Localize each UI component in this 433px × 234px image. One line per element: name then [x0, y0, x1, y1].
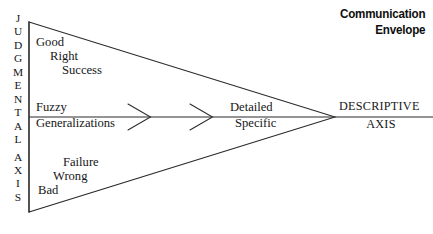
judgmental-axis-letter: N [10, 93, 26, 106]
judgmental-axis-letter: J [10, 12, 26, 25]
judgmental-axis-letter: S [10, 191, 26, 204]
judgmental-axis-letter: X [10, 164, 26, 177]
label-fuzzy: Fuzzy [36, 101, 67, 114]
label-success: Success [62, 64, 102, 77]
label-specific: Specific [235, 117, 276, 130]
label-wrong: Wrong [53, 170, 87, 183]
label-failure: Failure [63, 156, 99, 169]
judgmental-axis-letter: G [10, 52, 26, 65]
figure-title-line-2: Envelope [340, 22, 425, 38]
judgmental-axis-letter: D [10, 39, 26, 52]
judgmental-axis-letter: A [10, 120, 26, 133]
judgmental-axis-label: J U D G M E N T A L A X I S [10, 12, 26, 204]
judgmental-axis-letter: M [10, 66, 26, 79]
judgmental-axis-letter: U [10, 25, 26, 38]
label-generalizations: Generalizations [36, 117, 115, 130]
judgmental-axis-letter: E [10, 79, 26, 92]
diagram-canvas: Communication Envelope J U D G M E N T A… [0, 0, 433, 234]
label-good: Good [36, 36, 64, 49]
label-bad: Bad [38, 184, 58, 197]
judgmental-axis-letter: T [10, 106, 26, 119]
figure-title: Communication Envelope [340, 6, 425, 39]
label-detailed: Detailed [230, 101, 273, 114]
judgmental-axis-letter: A [10, 151, 26, 164]
descriptive-axis-label-line-1: DESCRIPTIVE [339, 100, 420, 112]
descriptive-axis-label-line-2: AXIS [339, 118, 423, 130]
judgmental-axis-letter: L [10, 133, 26, 146]
judgmental-axis-letter: I [10, 177, 26, 190]
label-right: Right [50, 50, 78, 63]
figure-title-line-1: Communication [340, 6, 425, 22]
